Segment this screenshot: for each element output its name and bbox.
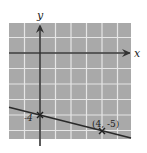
coordinate-graph: y x -4 (4, -5) xyxy=(0,0,147,153)
y-axis-label: y xyxy=(36,9,44,22)
intercept-label: -4 xyxy=(24,113,33,123)
x-axis-label: x xyxy=(134,47,141,60)
point-label: (4, -5) xyxy=(92,119,119,129)
